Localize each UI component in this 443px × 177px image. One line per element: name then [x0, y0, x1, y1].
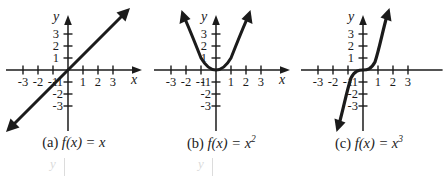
curve-arrowhead-lower — [335, 118, 346, 131]
y-tick-label: -3 — [348, 99, 358, 113]
x-tick-label: 1 — [227, 75, 233, 89]
cropped-y-axis-line — [64, 158, 65, 176]
y-axis — [359, 15, 367, 131]
x-tick-label: 2 — [242, 75, 248, 89]
x-tick-label: -2 — [328, 75, 338, 89]
cartesian-plot-cubic: -3 -2 -1 1 2 3 3 2 1 -1 -2 -3 y — [295, 0, 443, 137]
y-axis-arrowhead — [359, 15, 367, 25]
x-axis-label: x — [130, 72, 138, 87]
y-tick-label: 1 — [200, 52, 206, 66]
y-tick-label: 1 — [53, 52, 59, 66]
x-tick-label: -2 — [180, 75, 190, 89]
x-tick-label: -3 — [165, 75, 175, 89]
x-tick-label: -3 — [18, 75, 28, 89]
y-tick-label: -3 — [53, 99, 63, 113]
y-axis-label: y — [51, 9, 60, 24]
figure-panel-a: -3 -2 -1 1 2 3 3 2 1 -1 -2 -3 x y — [0, 0, 148, 160]
panel-caption-label: (c) — [335, 135, 351, 151]
figure-panel-b: -3 -2 -1 1 2 3 3 2 1 -1 -2 -3 x y — [148, 0, 296, 160]
x-tick-label: 3 — [257, 75, 263, 89]
figure-panel-c: -3 -2 -1 1 2 3 3 2 1 -1 -2 -3 y — [295, 0, 443, 160]
plot-area-a: -3 -2 -1 1 2 3 3 2 1 -1 -2 -3 x y — [0, 0, 148, 137]
panel-caption-label: (b) — [187, 135, 204, 151]
x-axis — [6, 66, 142, 74]
y-axis-arrowhead — [64, 15, 72, 25]
x-tick-label: 3 — [110, 75, 116, 89]
y-tick-label: 1 — [348, 52, 354, 66]
cropped-next-row-partials: y y — [0, 157, 443, 177]
x-tick-label: 1 — [80, 75, 86, 89]
panel-caption-function: f(x) = x — [207, 135, 251, 151]
y-tick-label: -3 — [200, 99, 210, 113]
panel-caption-function: f(x) = x — [62, 134, 106, 150]
y-axis — [212, 15, 220, 131]
cropped-y-axis-label: y — [198, 156, 204, 172]
x-tick-label: -3 — [313, 75, 323, 89]
panel-caption-label: (a) — [42, 134, 58, 150]
cartesian-plot-quadratic: -3 -2 -1 1 2 3 3 2 1 -1 -2 -3 x y — [148, 0, 296, 137]
plot-area-c: -3 -2 -1 1 2 3 3 2 1 -1 -2 -3 y — [295, 0, 443, 137]
panel-caption-function: f(x) = x — [355, 135, 399, 151]
cropped-y-axis-label: y — [50, 156, 56, 172]
panel-caption-exponent: 3 — [398, 134, 403, 144]
cartesian-plot-linear: -3 -2 -1 1 2 3 3 2 1 -1 -2 -3 x y — [0, 0, 148, 137]
panel-caption-b: (b) f(x) = x2 — [148, 134, 296, 152]
y-axis-label: y — [198, 9, 207, 24]
x-axis-label: x — [277, 72, 285, 87]
curve-arrowhead-upper — [381, 8, 392, 21]
y-axis-label: y — [346, 9, 355, 24]
cropped-y-axis-line — [212, 158, 213, 176]
panel-caption-exponent: 2 — [251, 134, 256, 144]
function-graph-figure-row: -3 -2 -1 1 2 3 3 2 1 -1 -2 -3 x y — [0, 0, 443, 160]
plot-area-b: -3 -2 -1 1 2 3 3 2 1 -1 -2 -3 x y — [148, 0, 296, 137]
panel-caption-a: (a) f(x) = x — [0, 134, 148, 151]
x-tick-label: 3 — [405, 75, 411, 89]
x-tick-label: -2 — [33, 75, 43, 89]
x-tick-label: 2 — [95, 75, 101, 89]
x-tick-label: 2 — [390, 75, 396, 89]
panel-caption-c: (c) f(x) = x3 — [295, 134, 443, 152]
y-axis-arrowhead — [212, 15, 220, 25]
x-tick-label: 1 — [375, 75, 381, 89]
